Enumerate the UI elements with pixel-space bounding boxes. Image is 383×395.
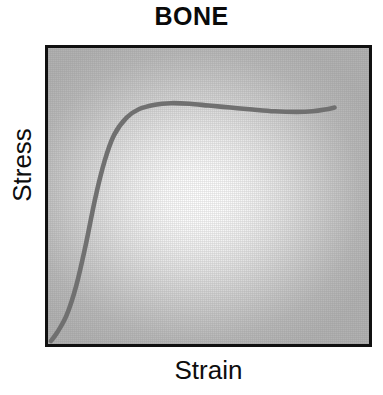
y-axis-label: Stress xyxy=(7,105,37,225)
plot-area xyxy=(45,45,372,347)
bone-stress-strain-figure: BONE Stress Strain xyxy=(0,0,383,395)
x-axis-label: Strain xyxy=(45,355,372,385)
page-title: BONE xyxy=(0,1,383,31)
plot-background xyxy=(48,48,369,344)
